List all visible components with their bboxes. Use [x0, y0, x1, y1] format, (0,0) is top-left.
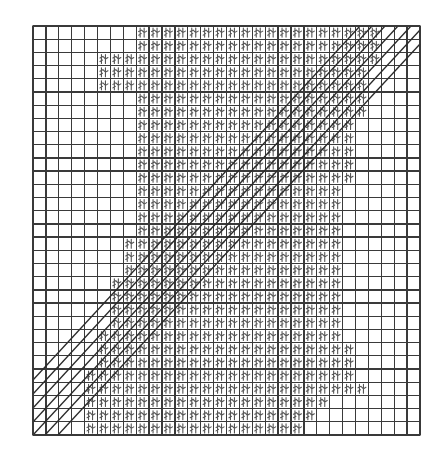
mesh-diagram [0, 0, 440, 456]
